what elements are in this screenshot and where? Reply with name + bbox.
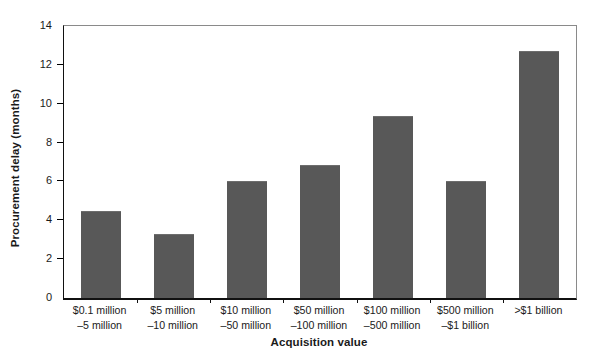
y-axis-tick-label: 12 [22, 57, 52, 71]
y-axis-tick-label: 8 [22, 135, 52, 149]
y-axis-tick-label: 10 [22, 96, 52, 110]
bar [446, 181, 486, 298]
plot-area [63, 25, 577, 300]
bar-series [64, 26, 576, 298]
bar [519, 51, 559, 298]
y-axis-tick-label: 0 [22, 290, 52, 304]
bar [300, 165, 340, 298]
x-axis-category-label-line2: –$1 billion [420, 318, 511, 333]
y-axis-tick-mark [57, 180, 63, 181]
y-axis-tick-labels: 02468101214 [22, 18, 52, 302]
x-axis-category-label-line1: >$1 billion [493, 303, 584, 318]
bar-chart: Procurement delay (months) 02468101214 $… [0, 0, 590, 358]
x-axis-category-label: >$1 billion [493, 303, 584, 318]
y-axis-tick-mark [57, 258, 63, 259]
y-axis-tick-label: 4 [22, 212, 52, 226]
y-axis-tick-label: 6 [22, 173, 52, 187]
y-axis-tick-mark [57, 103, 63, 104]
bar [154, 234, 194, 298]
bar [373, 116, 413, 298]
y-axis-tick-label: 14 [22, 18, 52, 32]
y-axis-tick-mark [57, 142, 63, 143]
y-axis-tick-mark [57, 219, 63, 220]
y-axis-tick-label: 2 [22, 251, 52, 265]
x-axis-title: Acquisition value [63, 336, 575, 348]
y-axis-tick-mark [57, 64, 63, 65]
bar [81, 211, 121, 298]
bar [227, 181, 267, 298]
x-axis-category-labels: $0.1 million–5 million$5 million–10 mill… [63, 303, 575, 337]
